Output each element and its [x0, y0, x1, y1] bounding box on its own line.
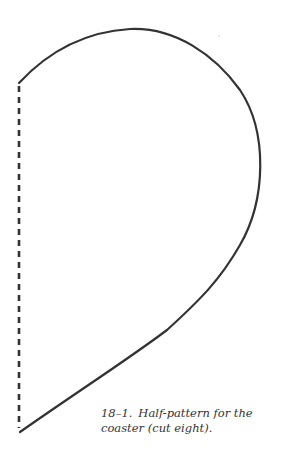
figure-number: 18–1.: [101, 406, 132, 420]
figure-caption: 18–1.Half-pattern for the coaster (cut e…: [101, 406, 281, 435]
caption-text-1: Half-pattern for the: [138, 406, 252, 420]
caption-line-1: 18–1.Half-pattern for the: [101, 406, 281, 421]
caption-line-2: coaster (cut eight).: [101, 421, 281, 436]
half-pattern-diagram: [0, 0, 283, 459]
speck: [218, 35, 220, 37]
pattern-outline-curve: [19, 29, 260, 432]
